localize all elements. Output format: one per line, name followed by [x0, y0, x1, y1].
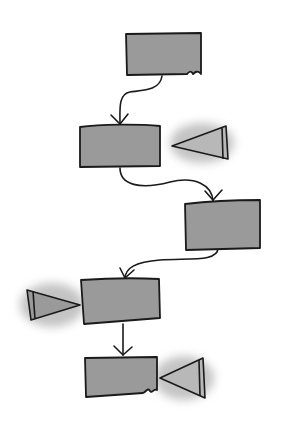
flowchart-diagram [0, 0, 281, 427]
box-4 [81, 278, 160, 324]
connector-2-3 [120, 168, 213, 201]
box-1 [126, 33, 201, 75]
box-2 [80, 125, 160, 167]
box-3 [185, 200, 260, 250]
box-5 [85, 357, 157, 397]
arrowhead-2 [205, 190, 222, 200]
triangle-3-edge [199, 360, 200, 396]
triangle-1-edge [222, 127, 223, 159]
connector-3-4 [125, 248, 218, 279]
connector-1-2 [120, 76, 162, 125]
